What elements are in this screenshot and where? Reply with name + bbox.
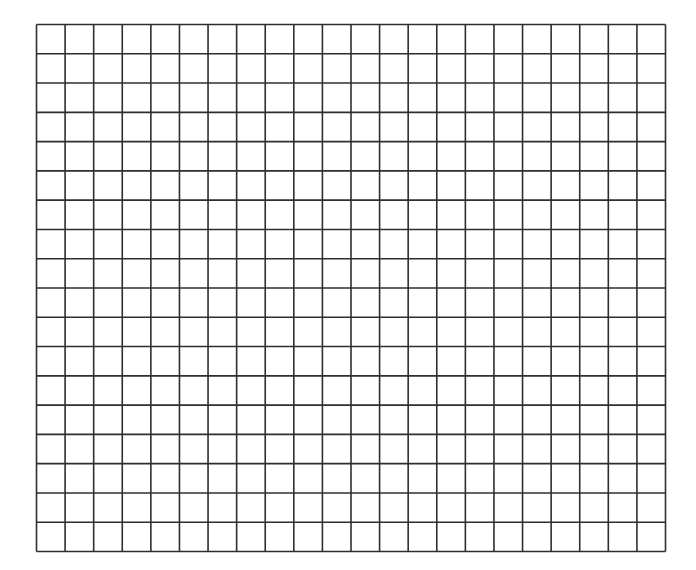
grid-lines (37, 25, 666, 552)
square-grid (0, 0, 696, 570)
blank-grid-page (0, 0, 696, 570)
